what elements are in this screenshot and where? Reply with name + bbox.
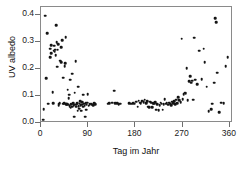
x-tick-label: 270	[167, 128, 197, 138]
scatter-point	[61, 39, 64, 42]
scatter-point	[57, 43, 60, 46]
x-tick-label: 0	[25, 128, 55, 138]
scatter-point	[85, 108, 88, 111]
scatter-point	[215, 21, 218, 24]
scatter-point	[186, 67, 189, 70]
scatter-point	[68, 93, 71, 96]
scatter-point	[226, 56, 229, 59]
scatter-point	[136, 106, 139, 109]
y-axis-label: UV albedo	[7, 21, 17, 93]
scatter-point	[196, 83, 199, 86]
scatter-point	[63, 65, 66, 68]
scatter-point	[119, 102, 122, 105]
scatter-point	[202, 48, 205, 51]
scatter-points-layer	[41, 7, 231, 121]
scatter-point	[74, 60, 77, 63]
scatter-point	[192, 99, 195, 102]
scatter-point	[214, 17, 217, 20]
scatter-point	[161, 108, 164, 111]
scatter-point	[187, 99, 190, 102]
scatter-point	[180, 37, 183, 40]
scatter-point	[55, 24, 58, 27]
scatter-point	[42, 108, 45, 111]
y-tick-label: 0.0	[8, 117, 34, 126]
scatter-point	[54, 54, 57, 57]
scatter-point	[222, 102, 225, 105]
scatter-point	[47, 102, 50, 105]
x-tick-mark	[40, 122, 41, 127]
scatter-point	[49, 56, 52, 59]
scatter-point	[216, 72, 219, 75]
scatter-point	[211, 102, 214, 105]
scatter-point	[62, 76, 65, 79]
scatter-point	[200, 78, 203, 81]
scatter-point	[113, 89, 116, 92]
x-tick-mark	[182, 122, 183, 127]
scatter-point	[71, 73, 74, 76]
scatter-point	[179, 101, 182, 104]
x-tick-label: 180	[119, 128, 149, 138]
scatter-point	[50, 52, 53, 55]
scatter-point	[194, 79, 197, 82]
scatter-point	[56, 66, 59, 69]
scatter-point	[157, 109, 160, 112]
scatter-point	[64, 62, 67, 65]
scatter-point	[66, 88, 69, 91]
scatter-point	[42, 118, 45, 121]
x-tick-label: 90	[72, 128, 102, 138]
x-tick-mark	[87, 122, 88, 127]
scatter-point	[84, 115, 87, 118]
scatter-point	[210, 108, 213, 111]
scatter-point	[181, 98, 184, 101]
scatter-point	[198, 49, 201, 52]
scatter-point	[60, 61, 63, 64]
scatter-point	[151, 106, 154, 109]
scatter-point	[94, 103, 97, 106]
scatter-point	[56, 48, 59, 51]
scatter-point	[205, 85, 208, 88]
uv-albedo-scatter-figure: UV albedo 0.00.10.20.30.4 090180270360 T…	[0, 0, 246, 169]
scatter-point	[193, 36, 196, 39]
scatter-point	[77, 85, 80, 88]
scatter-point	[218, 111, 221, 114]
scatter-point	[44, 15, 47, 18]
y-tick-label: 0.2	[8, 63, 34, 72]
scatter-point	[53, 44, 56, 47]
scatter-point	[164, 98, 167, 101]
scatter-point	[64, 36, 67, 39]
x-tick-mark	[229, 122, 230, 127]
scatter-point	[68, 97, 71, 100]
x-tick-label: 360	[214, 128, 244, 138]
y-tick-label: 0.4	[8, 9, 34, 18]
scatter-point	[213, 81, 216, 84]
scatter-point	[51, 91, 54, 94]
scatter-point	[82, 93, 85, 96]
scatter-point	[86, 93, 89, 96]
scatter-point	[69, 79, 72, 82]
y-tick-label: 0.1	[8, 90, 34, 99]
x-tick-mark	[134, 122, 135, 127]
x-axis-label: Tag im Jahr	[40, 146, 232, 156]
scatter-point	[189, 75, 192, 78]
scatter-point	[224, 65, 227, 68]
scatter-point	[80, 110, 83, 113]
scatter-point	[203, 61, 206, 64]
scatter-point	[184, 92, 187, 95]
plot-area	[40, 6, 232, 122]
scatter-point	[52, 102, 55, 105]
scatter-point	[46, 32, 49, 35]
scatter-point	[45, 77, 48, 80]
scatter-point	[60, 46, 63, 49]
y-tick-label: 0.3	[8, 36, 34, 45]
scatter-point	[73, 91, 76, 94]
scatter-point	[73, 116, 76, 119]
